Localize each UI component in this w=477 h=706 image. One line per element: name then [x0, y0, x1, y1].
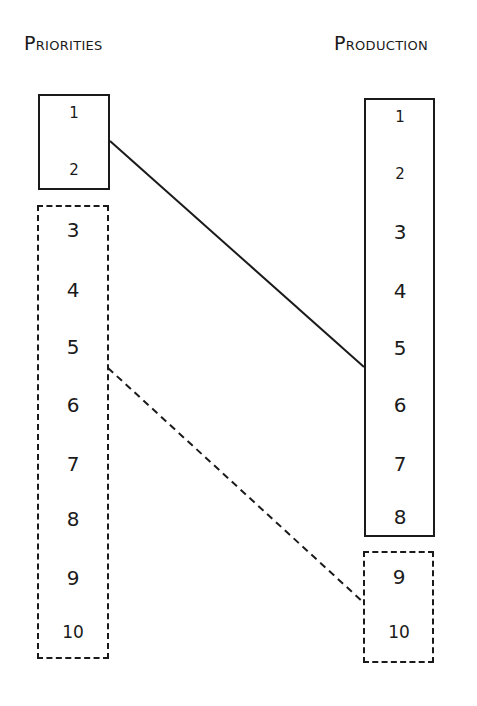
solid-connector — [110, 141, 364, 367]
connector-lines — [0, 0, 477, 706]
dashed-connector — [108, 368, 363, 602]
